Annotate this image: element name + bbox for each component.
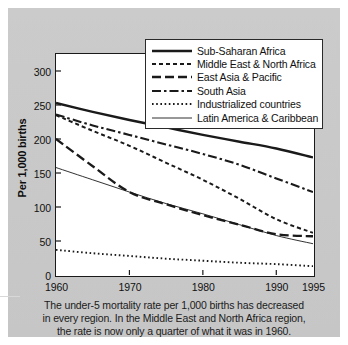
y-tick-label: 50 (40, 236, 51, 248)
caption-line-3: the rate is now only a quarter of what i… (14, 325, 334, 338)
legend-item: Industrialized countries (151, 98, 317, 111)
y-tick-label: 150 (34, 168, 51, 180)
x-tick-label: 1960 (45, 281, 68, 293)
legend-line-swatch (151, 85, 193, 97)
series-line-industrialized-countries (56, 250, 313, 266)
x-tick-label: 1980 (192, 281, 215, 293)
panel-separator (0, 296, 20, 297)
x-tick-label: 1990 (265, 281, 288, 293)
y-tick-label: 200 (34, 134, 51, 146)
series-line-middle-east-north-africa (56, 115, 313, 233)
y-axis-tick-labels: 300250200150100500 (22, 53, 51, 277)
y-tick-label: 300 (34, 66, 51, 78)
legend-item-label: East Asia & Pacific (193, 71, 282, 83)
x-tick-label: 1995 (302, 281, 325, 293)
y-tick-label: 100 (34, 202, 51, 214)
legend-item-label: Industrialized countries (193, 98, 301, 110)
chart-figure: Per 1,000 births 300250200150100500 1960… (0, 0, 348, 345)
legend-item: South Asia (151, 84, 317, 97)
legend-line-swatch (151, 71, 193, 83)
figure-caption: The under-5 mortality rate per 1,000 bir… (14, 299, 334, 339)
legend-item: Middle East & North Africa (151, 57, 317, 70)
y-tick-label: 0 (45, 270, 51, 282)
caption-line-2: in every region. In the Middle East and … (14, 312, 334, 325)
legend-line-swatch (151, 112, 193, 124)
legend-line-swatch (151, 98, 193, 110)
legend-item: East Asia & Pacific (151, 71, 317, 84)
legend-line-swatch (151, 45, 193, 57)
legend-item-label: South Asia (193, 85, 246, 97)
y-tick-label: 250 (34, 100, 51, 112)
series-line-latin-america-caribbean (56, 168, 313, 244)
caption-line-1: The under-5 mortality rate per 1,000 bir… (14, 299, 334, 312)
legend-item-label: Middle East & North Africa (193, 58, 316, 70)
x-tick-label: 1970 (118, 281, 141, 293)
legend-item-label: Latin America & Caribbean (193, 112, 318, 124)
legend-item-label: Sub-Saharan Africa (193, 45, 285, 57)
chart-legend: Sub-Saharan AfricaMiddle East & North Af… (145, 39, 323, 129)
legend-line-swatch (151, 58, 193, 70)
series-line-east-asia-pacific (56, 139, 313, 236)
legend-item: Sub-Saharan Africa (151, 44, 317, 57)
x-axis-tick-labels: 19601970198019901995 (55, 281, 315, 297)
legend-item: Latin America & Caribbean (151, 111, 317, 124)
